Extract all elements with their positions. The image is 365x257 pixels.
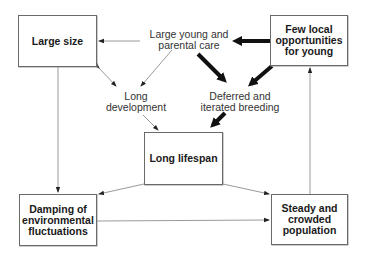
arrow-parental-to-long-development	[141, 50, 172, 86]
box-large-size: Large size	[18, 15, 97, 67]
box-few-local-opportunities: Few local opportunities for young	[270, 15, 348, 66]
box-steady-population: Steady and crowded population	[271, 194, 348, 245]
arrow-lifespan-to-damping	[99, 184, 144, 194]
arrow-large-size-long-development	[99, 68, 116, 86]
thick-arrow-parental-to-deferred	[198, 54, 224, 80]
arrow-long-development-to-lifespan	[143, 115, 158, 130]
box-long-lifespan: Long lifespan	[144, 132, 223, 185]
box-large-size-text: Large size	[32, 36, 83, 47]
arrow-damping-to-steady	[97, 220, 269, 221]
label-parental-care: Large young and parental care	[142, 29, 236, 51]
box-damping-text: Damping of environmental fluctuations	[22, 204, 94, 237]
label-deferred-breeding: Deferred and iterated breeding	[190, 91, 290, 113]
thick-arrow-deferred-to-lifespan	[213, 113, 225, 125]
thick-arrow-few-local-to-deferred	[251, 66, 272, 84]
box-steady-text: Steady and crowded population	[281, 203, 337, 236]
arrow-lifespan-to-steady	[223, 184, 269, 194]
life-history-diagram: Large size Few local opportunities for y…	[0, 0, 365, 257]
box-long-lifespan-text: Long lifespan	[149, 153, 217, 164]
label-long-development: Long development	[98, 91, 174, 113]
box-damping: Damping of environmental fluctuations	[19, 194, 97, 246]
box-few-local-text: Few local opportunities for young	[275, 24, 342, 57]
